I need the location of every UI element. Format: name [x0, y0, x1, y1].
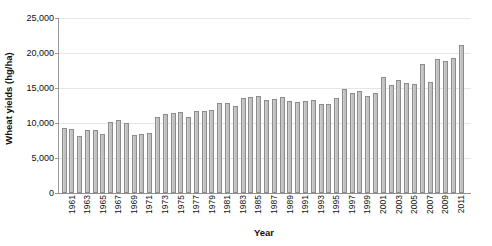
x-tick-label: 1975 [176, 195, 186, 214]
bar [93, 130, 98, 193]
bars-series [59, 18, 471, 193]
y-axis-title: Wheat yields (hg/ha) [0, 0, 16, 196]
y-axis-tick-labels: 05,00010,00015,00020,00025,000 [16, 0, 58, 196]
y-tick-label: 0 [49, 188, 54, 198]
bar [217, 103, 222, 193]
x-tick-label: 1985 [253, 195, 263, 214]
bar [404, 83, 409, 193]
bar [350, 93, 355, 193]
x-tick-label: 1963 [82, 195, 92, 214]
bar [139, 134, 144, 194]
bar [303, 101, 308, 193]
x-tick-label: 2009 [440, 195, 450, 214]
x-tick-label: 1977 [191, 195, 201, 214]
bar [420, 64, 425, 194]
bar [326, 104, 331, 193]
x-tick-label: 1971 [144, 195, 154, 214]
bar [147, 133, 152, 193]
bar [178, 112, 183, 193]
x-tick-label: 1973 [160, 195, 170, 214]
bar [342, 89, 347, 193]
y-tick-mark [55, 193, 59, 194]
y-tick-label: 5,000 [31, 153, 54, 163]
bar [163, 114, 168, 193]
x-tick-label: 1993 [316, 195, 326, 214]
bar [100, 134, 105, 193]
y-axis-title-text: Wheat yields (hg/ha) [3, 52, 14, 144]
bar [365, 96, 370, 193]
x-axis-tick-labels: 1961196319651967196919711973197519771979… [58, 195, 470, 225]
plot-area [58, 18, 471, 194]
x-tick-label: 1967 [113, 195, 123, 214]
bar [241, 98, 246, 193]
bar [225, 103, 230, 193]
x-tick-label: 2001 [378, 195, 388, 214]
bar [62, 128, 67, 193]
bar [155, 117, 160, 193]
x-tick-label: 1991 [300, 195, 310, 214]
bar [85, 130, 90, 193]
bar [311, 100, 316, 193]
x-tick-label: 1969 [129, 195, 139, 214]
bar [389, 85, 394, 193]
y-tick-label: 20,000 [26, 48, 54, 58]
x-axis-title: Year [58, 227, 470, 238]
x-tick-label: 1987 [269, 195, 279, 214]
bar [272, 99, 277, 193]
bar [428, 82, 433, 193]
bar [319, 104, 324, 193]
bar [77, 136, 82, 193]
x-tick-label: 2003 [394, 195, 404, 214]
bar [357, 91, 362, 193]
x-tick-label: 2005 [409, 195, 419, 214]
y-tick-label: 15,000 [26, 83, 54, 93]
x-tick-label: 1965 [98, 195, 108, 214]
x-tick-label: 1997 [347, 195, 357, 214]
bar [443, 61, 448, 193]
bar [451, 58, 456, 193]
bar [396, 80, 401, 193]
x-tick-label: 1995 [331, 195, 341, 214]
bar [171, 113, 176, 193]
x-tick-label: 1961 [67, 195, 77, 214]
wheat-yields-bar-chart: Wheat yields (hg/ha) 05,00010,00015,0002… [0, 0, 492, 246]
x-tick-label: 1999 [362, 195, 372, 214]
bar [280, 97, 285, 193]
bar [124, 123, 129, 193]
bar [295, 102, 300, 193]
bar [233, 106, 238, 193]
bar [248, 97, 253, 193]
bar [256, 96, 261, 193]
bar [186, 117, 191, 193]
y-tick-label: 25,000 [26, 13, 54, 23]
bar [202, 111, 207, 193]
y-tick-label: 10,000 [26, 118, 54, 128]
bar [459, 45, 464, 193]
bar [132, 135, 137, 193]
bar [381, 77, 386, 193]
x-tick-label: 1981 [222, 195, 232, 214]
bar [412, 84, 417, 193]
bar [287, 101, 292, 193]
x-tick-label: 1983 [238, 195, 248, 214]
bar [334, 98, 339, 193]
bar [69, 129, 74, 193]
bar [373, 93, 378, 193]
bar [194, 111, 199, 193]
x-tick-label: 2007 [425, 195, 435, 214]
x-tick-label: 1979 [207, 195, 217, 214]
bar [264, 100, 269, 193]
bar [116, 120, 121, 193]
bar [209, 110, 214, 193]
x-tick-label: 2011 [456, 195, 466, 213]
bar [435, 59, 440, 193]
bar [108, 122, 113, 193]
x-tick-label: 1989 [285, 195, 295, 214]
